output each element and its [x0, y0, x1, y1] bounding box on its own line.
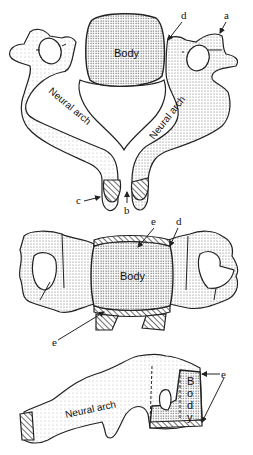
pedicle-left [96, 314, 118, 330]
label-e-bottom: e [52, 336, 57, 348]
articular-tip [20, 412, 34, 440]
label-a: a [224, 9, 229, 21]
label-d-top: d [181, 9, 187, 21]
body-letter-y: y [187, 411, 193, 423]
body-letter-b: B [187, 375, 194, 387]
top-view: Body Neural arch Neural arch d a c b [10, 9, 238, 216]
body-label-front: Body [120, 270, 146, 282]
body-label: Body [114, 47, 140, 59]
front-hole-left [32, 253, 56, 290]
label-c: c [76, 194, 81, 206]
label-e-top: e [151, 215, 156, 227]
side-view: Neural arch B o d y e [20, 355, 226, 444]
pedicle-right [142, 314, 166, 330]
spinous-tip-right [131, 178, 148, 200]
label-b: b [124, 204, 130, 216]
side-hole [159, 390, 171, 410]
body-letter-o: o [187, 387, 193, 399]
label-d-front: d [176, 215, 182, 227]
endplate-side [150, 420, 202, 428]
vertebra-diagram: Body Neural arch Neural arch d a c b Bod… [0, 0, 253, 455]
front-view: Body e d e [20, 215, 238, 348]
body-letter-d: d [187, 399, 193, 411]
